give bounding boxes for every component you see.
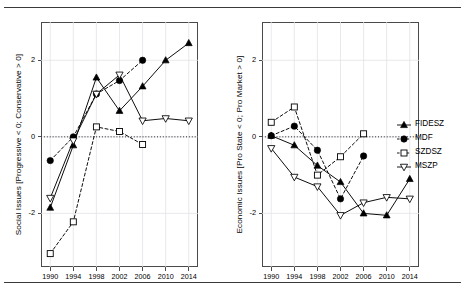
l-x-tick-label: 2014 — [174, 272, 204, 281]
figure-canvas: Social Issues [Progressive < 0; Conserva… — [0, 0, 465, 297]
l-y-tick-label: 0 — [19, 132, 35, 141]
l-x-tickmark — [188, 267, 189, 271]
l-y-tickmark — [38, 60, 42, 61]
r-x-tickmark — [271, 267, 272, 271]
l-x-tickmark — [119, 267, 120, 271]
l-x-tickmark — [142, 267, 143, 271]
r-x-tickmark — [363, 267, 364, 271]
filled-triangle-up-icon — [396, 117, 412, 129]
l-x-tickmark — [96, 267, 97, 271]
r-x-tickmark — [409, 267, 410, 271]
r-x-tickmark — [340, 267, 341, 271]
open-square-icon — [396, 145, 412, 157]
left-plot-panel — [41, 22, 198, 267]
legend-label: MSZP — [412, 161, 438, 170]
top-rule — [4, 7, 461, 8]
l-y-tick-label: 2 — [19, 55, 35, 64]
legend: FIDESZMDFSZDSZMSZP — [396, 116, 464, 172]
l-y-tickmark — [38, 136, 42, 137]
l-x-tickmark — [73, 267, 74, 271]
r-x-tickmark — [294, 267, 295, 271]
r-x-tick-label: 2014 — [395, 272, 425, 281]
legend-label: SZDSZ — [412, 147, 442, 156]
legend-item-fidesz[interactable]: FIDESZ — [396, 116, 464, 130]
legend-item-mdf[interactable]: MDF — [396, 130, 464, 144]
r-y-tickmark — [259, 213, 263, 214]
legend-item-szdsz[interactable]: SZDSZ — [396, 144, 464, 158]
r-x-tickmark — [386, 267, 387, 271]
open-triangle-down-icon — [396, 159, 412, 171]
l-y-tick-label: -2 — [19, 208, 35, 217]
l-x-tickmark — [50, 267, 51, 271]
l-x-tickmark — [165, 267, 166, 271]
r-x-tickmark — [317, 267, 318, 271]
r-y-tick-label: 2 — [240, 55, 256, 64]
bottom-rule — [4, 282, 461, 283]
r-y-tick-label: -2 — [240, 208, 256, 217]
l-y-tickmark — [38, 213, 42, 214]
filled-circle-icon — [396, 131, 412, 143]
left-plot-svg — [41, 22, 198, 267]
r-y-tick-label: 0 — [240, 132, 256, 141]
legend-item-mszp[interactable]: MSZP — [396, 158, 464, 172]
r-y-tickmark — [259, 136, 263, 137]
r-y-tickmark — [259, 60, 263, 61]
legend-label: FIDESZ — [412, 119, 444, 128]
legend-label: MDF — [412, 133, 433, 142]
